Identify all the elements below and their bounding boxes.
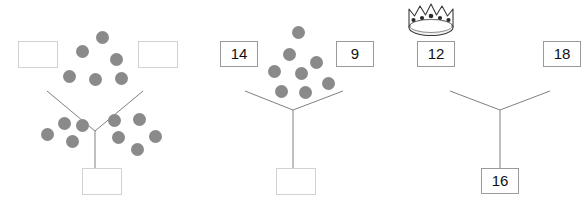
tree-1-left-addend-box[interactable] bbox=[18, 41, 58, 68]
tree-3-total-box[interactable]: 16 bbox=[481, 168, 519, 194]
counter-dot bbox=[133, 113, 146, 126]
tree-3-left-addend-box[interactable]: 12 bbox=[417, 41, 455, 67]
crown-icon bbox=[404, 2, 458, 40]
counter-dot bbox=[322, 77, 335, 90]
number-bond-tree-3: 12 18 16 bbox=[395, 0, 580, 205]
worksheet-canvas: 14 9 12 18 16 bbox=[0, 0, 585, 205]
counter-dot bbox=[131, 143, 144, 156]
counter-dot bbox=[63, 70, 76, 83]
counter-dot bbox=[149, 130, 162, 143]
tree-2-left-addend-box[interactable]: 14 bbox=[220, 41, 258, 67]
number-bond-tree-2: 14 9 bbox=[200, 0, 385, 205]
tree-1-right-addend-box[interactable] bbox=[138, 41, 178, 68]
tree-2-total-box[interactable] bbox=[276, 168, 316, 195]
counter-dot bbox=[295, 67, 308, 80]
counter-dot bbox=[66, 135, 79, 148]
counter-dot bbox=[76, 119, 89, 132]
tree-1-total-box[interactable] bbox=[82, 168, 122, 195]
number-bond-tree-1 bbox=[0, 0, 185, 205]
counter-dot bbox=[268, 65, 281, 78]
counter-dot bbox=[299, 86, 312, 99]
tree-3-right-addend-box[interactable]: 18 bbox=[543, 41, 581, 67]
counter-dot bbox=[292, 26, 305, 39]
counter-dot bbox=[310, 56, 323, 69]
counter-dot bbox=[96, 31, 109, 44]
counter-dot bbox=[283, 48, 296, 61]
counter-dot bbox=[41, 128, 54, 141]
tree-2-right-addend-box[interactable]: 9 bbox=[336, 41, 374, 67]
counter-dot bbox=[76, 45, 89, 58]
counter-dot bbox=[58, 117, 71, 130]
counter-dot bbox=[112, 131, 125, 144]
counter-dot bbox=[115, 72, 128, 85]
counter-dot bbox=[275, 85, 288, 98]
counter-dot bbox=[89, 73, 102, 86]
counter-dot bbox=[110, 53, 123, 66]
counter-dot bbox=[108, 114, 121, 127]
